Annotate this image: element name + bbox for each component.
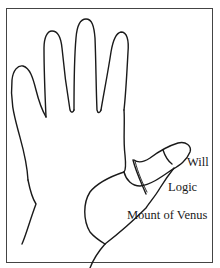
label-will: Will: [187, 156, 209, 169]
label-logic: Logic: [168, 181, 197, 194]
label-mount-of-venus: Mount of Venus: [127, 209, 207, 222]
ring-finger-outline: [44, 31, 74, 117]
hand-outline-icon: [0, 0, 220, 268]
middle-finger-outline: [74, 19, 101, 113]
logic-divider-line: [133, 160, 146, 194]
will-divider-line: [163, 150, 172, 164]
wrist-left-line: [22, 180, 36, 244]
index-finger-outline: [101, 32, 128, 110]
logic-divider-line-2: [135, 161, 147, 192]
little-finger-outline: [11, 66, 46, 180]
palm-right-edge: [124, 110, 126, 172]
wrist-right-line: [90, 244, 105, 268]
